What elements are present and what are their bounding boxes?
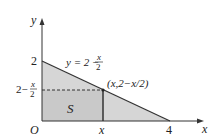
- svg-text:x: x: [30, 79, 35, 89]
- curve-label: y = 2 − x 2: [65, 52, 103, 72]
- x-axis-label: x: [201, 122, 208, 136]
- svg-text:2−: 2−: [16, 83, 28, 95]
- svg-text:2: 2: [96, 62, 101, 72]
- svg-text:y = 2 −: y = 2 −: [65, 56, 99, 68]
- y-intercept-label: 2: [31, 54, 37, 68]
- svg-text:x: x: [96, 52, 101, 62]
- x-point-label: x: [98, 123, 105, 137]
- diagram: y x O 2 4 x y = 2 − x 2 2− x 2 (x,2−x/2)…: [0, 0, 215, 139]
- origin-label: O: [30, 123, 39, 137]
- x-intercept-label: 4: [166, 123, 172, 137]
- region-label: S: [67, 101, 74, 116]
- height-label: 2− x 2: [16, 79, 37, 99]
- svg-text:2: 2: [30, 89, 35, 99]
- y-axis-arrow-icon: [40, 18, 45, 25]
- point-marker: [101, 88, 104, 91]
- y-axis-label: y: [30, 13, 37, 27]
- point-label: (x,2−x/2): [107, 77, 149, 90]
